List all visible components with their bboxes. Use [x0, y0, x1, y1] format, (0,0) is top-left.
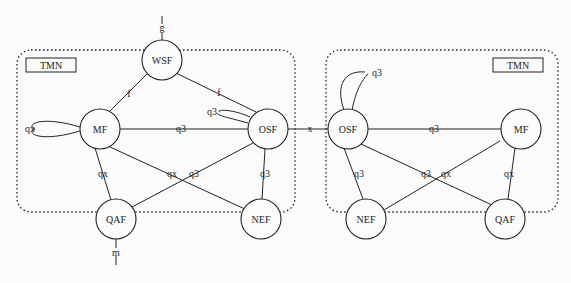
ref-q3-osf-qaf: q3 [189, 168, 199, 179]
node-label-mf-right: MF [514, 124, 529, 135]
tmn-label-left: TMN [40, 60, 62, 71]
node-label-qaf-right: QAF [495, 214, 515, 225]
ref-m: m [112, 247, 120, 258]
ref-qx-mf-nef: qx [167, 168, 177, 179]
ref-qx-mf-self: qx [25, 123, 35, 134]
ref-f-wsf-osf: f [217, 87, 221, 98]
ref-q3-rosf-rmf: q3 [429, 123, 439, 134]
ref-qx-rmf-qaf: qx [504, 168, 514, 179]
ref-qx-rmf-nef: qx [441, 168, 451, 179]
ref-q3-mf-osf: q3 [176, 123, 186, 134]
ref-q3-osf-nef: q3 [260, 168, 270, 179]
node-label-wsf: WSF [152, 55, 173, 66]
ref-g: g [160, 22, 165, 33]
tmn-label-right: TMN [507, 60, 529, 71]
node-label-osf-left: OSF [259, 124, 278, 135]
node-label-nef-left: NEF [252, 214, 271, 225]
ref-q3-rosf-self: q3 [372, 67, 382, 78]
ref-qx-mf-qaf: qx [98, 168, 108, 179]
node-label-qaf-left: QAF [106, 214, 126, 225]
node-label-osf-right: OSF [339, 124, 358, 135]
ref-q3-rosf-qaf: q3 [421, 168, 431, 179]
ref-x-osf-osf: x [308, 123, 313, 134]
node-label-mf-left: MF [93, 124, 108, 135]
ref-q3-rosf-nef: q3 [354, 168, 364, 179]
tmn-diagram: TMN TMN [0, 0, 571, 283]
node-label-nef-right: NEF [357, 214, 376, 225]
ref-q3-osf-self: q3 [207, 106, 217, 117]
